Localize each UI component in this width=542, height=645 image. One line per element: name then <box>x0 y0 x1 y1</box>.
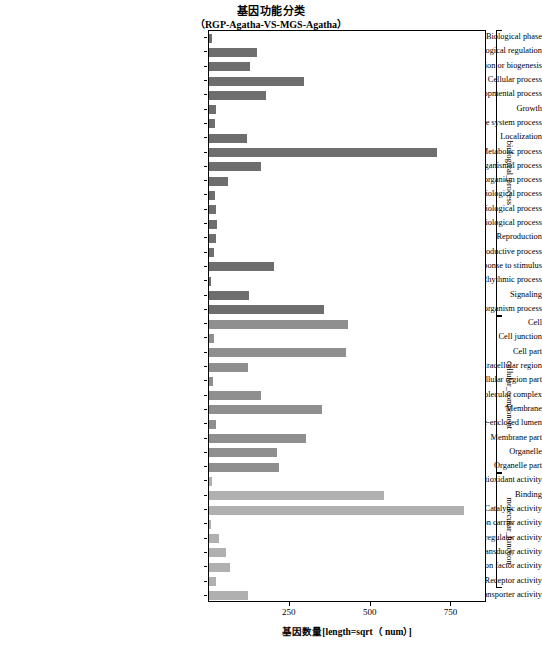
bar-fill <box>209 177 228 186</box>
category-tick <box>204 438 207 439</box>
bar-fill <box>209 491 384 500</box>
bar <box>209 577 216 586</box>
bar-fill <box>209 119 215 128</box>
category-tick <box>204 337 207 338</box>
plot-area <box>208 30 486 602</box>
category-tick <box>204 237 207 238</box>
bar-fill <box>209 591 248 600</box>
group-label: molecular_function <box>505 497 515 564</box>
category-tick <box>204 509 207 510</box>
category-tick <box>204 137 207 138</box>
bar <box>209 77 304 86</box>
bar-fill <box>209 262 274 271</box>
category-tick <box>204 566 207 567</box>
bar-fill <box>209 548 226 557</box>
bar <box>209 363 248 372</box>
bar <box>209 548 226 557</box>
x-axis-tick <box>289 602 290 606</box>
bar <box>209 234 216 243</box>
bar <box>209 420 216 429</box>
category-tick <box>204 352 207 353</box>
category-tick <box>204 523 207 524</box>
bar <box>209 534 219 543</box>
bar-fill <box>209 391 261 400</box>
bar-fill <box>209 506 464 515</box>
category-tick <box>204 323 207 324</box>
category-tick <box>204 309 207 310</box>
bar <box>209 291 249 300</box>
group-bracket <box>496 316 502 473</box>
bar-fill <box>209 448 277 457</box>
bar <box>209 520 211 529</box>
category-tick <box>204 194 207 195</box>
bar <box>209 563 230 572</box>
bar-fill <box>209 348 346 357</box>
category-tick <box>204 223 207 224</box>
bar-fill <box>209 291 249 300</box>
group-bracket <box>496 30 502 316</box>
category-tick <box>204 538 207 539</box>
category-tick <box>204 109 207 110</box>
bar-fill <box>209 420 216 429</box>
bar <box>209 591 248 600</box>
category-tick <box>204 466 207 467</box>
x-axis-tick-label: 750 <box>444 607 458 617</box>
group-label: biological_process <box>505 141 515 205</box>
bar-fill <box>209 534 219 543</box>
bar <box>209 191 215 200</box>
category-tick <box>204 209 207 210</box>
group-bracket <box>496 473 502 587</box>
bar <box>209 248 214 257</box>
bar-fill <box>209 34 212 43</box>
bar-fill <box>209 191 215 200</box>
bar-fill <box>209 205 216 214</box>
category-tick <box>204 37 207 38</box>
bar <box>209 148 437 157</box>
category-tick <box>204 66 207 67</box>
bar-fill <box>209 377 213 386</box>
bar-fill <box>209 520 211 529</box>
category-tick <box>204 180 207 181</box>
category-tick <box>204 552 207 553</box>
bar <box>209 477 212 486</box>
category-tick <box>204 80 207 81</box>
bar-fill <box>209 220 217 229</box>
bar-fill <box>209 91 266 100</box>
bar-fill <box>209 277 211 286</box>
bar-fill <box>209 305 324 314</box>
bar-fill <box>209 48 257 57</box>
bar <box>209 48 257 57</box>
bar-fill <box>209 148 437 157</box>
category-tick <box>204 266 207 267</box>
bar <box>209 334 214 343</box>
bar <box>209 262 274 271</box>
bar-fill <box>209 363 248 372</box>
bar <box>209 448 277 457</box>
bar <box>209 91 266 100</box>
bar-fill <box>209 248 214 257</box>
bar-fill <box>209 105 216 114</box>
category-tick <box>204 452 207 453</box>
bar <box>209 134 247 143</box>
category-tick <box>204 423 207 424</box>
bar <box>209 434 306 443</box>
chart-title: 基因功能分类 <box>0 4 542 18</box>
category-tick <box>204 166 207 167</box>
category-tick <box>204 495 207 496</box>
bar <box>209 405 322 414</box>
category-tick <box>204 480 207 481</box>
x-axis-tick-label: 500 <box>363 607 377 617</box>
bar <box>209 220 217 229</box>
bar <box>209 162 261 171</box>
bar-fill <box>209 477 212 486</box>
bar-fill <box>209 334 214 343</box>
bar-fill <box>209 463 279 472</box>
bar-fill <box>209 162 261 171</box>
bar <box>209 305 324 314</box>
bar <box>209 320 348 329</box>
chart-title-block: 基因功能分类 （RGP-Agatha-VS-MGS-Agatha） <box>0 4 542 32</box>
gene-function-classification-chart: 基因功能分类 （RGP-Agatha-VS-MGS-Agatha） Biolog… <box>0 0 542 645</box>
bar <box>209 377 213 386</box>
bar <box>209 62 250 71</box>
bar <box>209 491 384 500</box>
